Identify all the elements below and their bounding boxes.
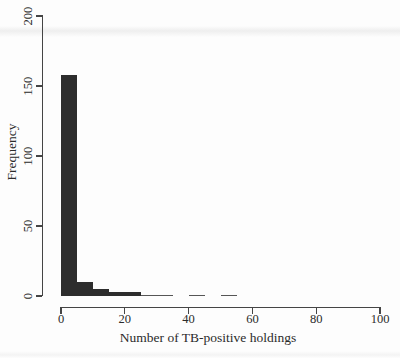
x-tick-label: 0 bbox=[58, 312, 64, 327]
histogram-bar bbox=[109, 292, 125, 296]
histogram-bar bbox=[125, 292, 141, 296]
histogram-bar bbox=[157, 295, 173, 296]
histogram-bar bbox=[221, 295, 237, 296]
scan-artifact-band-top bbox=[0, 26, 400, 37]
y-tick-label: 150 bbox=[20, 77, 35, 96]
y-tick-mark bbox=[36, 85, 43, 86]
x-tick-label: 100 bbox=[371, 312, 390, 327]
x-tick-label: 40 bbox=[182, 312, 195, 327]
scan-artifact-band-bottom bbox=[0, 351, 400, 358]
y-tick-label: 50 bbox=[20, 220, 35, 233]
histogram-bar bbox=[61, 75, 77, 296]
histogram-figure: 050100150200 020406080100 Frequency Numb… bbox=[0, 0, 400, 358]
histogram-bar bbox=[77, 282, 93, 296]
y-tick-label: 0 bbox=[20, 293, 35, 299]
x-tick-label: 20 bbox=[119, 312, 132, 327]
x-tick-label: 80 bbox=[310, 312, 323, 327]
histogram-bar bbox=[93, 289, 109, 296]
y-tick-mark bbox=[36, 15, 43, 16]
x-tick-label: 60 bbox=[246, 312, 259, 327]
y-tick-mark bbox=[36, 155, 43, 156]
x-axis-line bbox=[61, 307, 381, 308]
y-tick-mark bbox=[36, 295, 43, 296]
histogram-bar bbox=[141, 295, 157, 296]
y-axis-title: Frequency bbox=[4, 124, 20, 181]
y-tick-mark bbox=[36, 225, 43, 226]
y-tick-label: 100 bbox=[20, 147, 35, 166]
histogram-bar bbox=[189, 295, 205, 296]
y-tick-label: 200 bbox=[20, 7, 35, 26]
x-axis-title: Number of TB-positive holdings bbox=[120, 330, 296, 346]
